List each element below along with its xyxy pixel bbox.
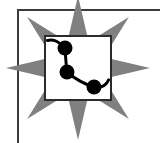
chart-data-point-3 bbox=[87, 80, 102, 95]
chart-data-point-1 bbox=[58, 41, 73, 56]
chart-data-point-2 bbox=[60, 65, 75, 80]
chart-panel-layer bbox=[0, 0, 160, 143]
icon-canvas: Line chart panel over an eight-pointed s… bbox=[0, 0, 160, 143]
chart-panel bbox=[45, 36, 111, 100]
